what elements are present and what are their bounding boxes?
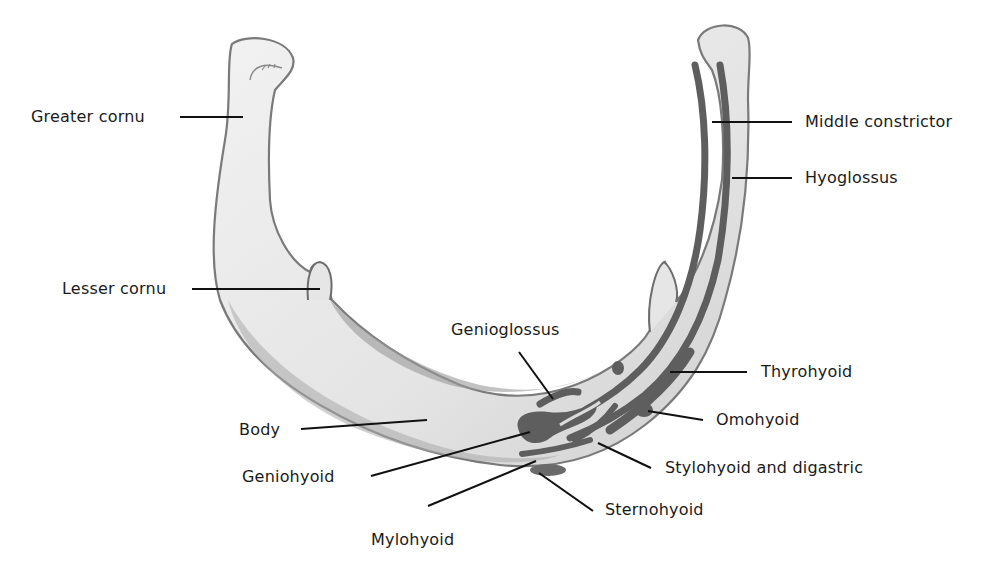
leader-genioglossus bbox=[519, 352, 553, 399]
label-middle-constrictor: Middle constrictor bbox=[805, 112, 952, 132]
leader-mylohyoid bbox=[428, 461, 536, 506]
label-omohyoid: Omohyoid bbox=[716, 410, 800, 430]
label-stylohyoid-digastric: Stylohyoid and digastric bbox=[665, 458, 863, 478]
muscle-spot bbox=[612, 361, 624, 375]
label-genioglossus: Genioglossus bbox=[451, 320, 560, 340]
label-lesser-cornu: Lesser cornu bbox=[62, 279, 166, 299]
omohyoid-attachment bbox=[635, 403, 653, 417]
label-mylohyoid: Mylohyoid bbox=[371, 530, 454, 550]
label-hyoglossus: Hyoglossus bbox=[805, 168, 898, 188]
label-geniohyoid: Geniohyoid bbox=[242, 467, 335, 487]
hyoid-bone bbox=[214, 25, 750, 476]
lesser-cornu-left bbox=[308, 262, 332, 300]
label-body: Body bbox=[239, 420, 280, 440]
label-thyrohyoid: Thyrohyoid bbox=[761, 362, 852, 382]
label-sternohyoid: Sternohyoid bbox=[605, 500, 704, 520]
leader-stylohyoid-digastric bbox=[598, 443, 651, 468]
bone-shape bbox=[214, 25, 750, 466]
sternohyoid-attachment bbox=[530, 464, 566, 476]
label-greater-cornu: Greater cornu bbox=[31, 107, 145, 127]
leader-sternohyoid bbox=[539, 473, 593, 511]
